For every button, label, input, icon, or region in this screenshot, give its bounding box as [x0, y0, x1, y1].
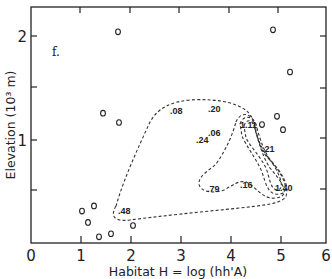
data-point	[117, 120, 122, 126]
contour-label: 1.40	[275, 183, 293, 193]
data-point	[109, 231, 114, 237]
contour-label: .06	[208, 128, 221, 138]
contour-outer	[113, 100, 287, 221]
x-tick-labels: 0 1 2 3 4 5 6	[26, 247, 331, 265]
x-tick-label: 1	[76, 247, 86, 265]
data-point	[275, 114, 280, 120]
data-point	[80, 208, 85, 214]
contour-lines	[113, 100, 287, 221]
contour-label: .79	[207, 184, 220, 194]
x-tick-label: 4	[226, 247, 236, 265]
x-tick-label: 3	[176, 247, 186, 265]
contour-label: .24	[196, 135, 209, 145]
x-axis-title: Habitat H = log (hh'A)	[109, 264, 247, 279]
scatter-contour-chart: 0 1 2 3 4 5 6 2 1 Habitat H = log (hh'A)…	[0, 0, 332, 279]
data-points	[80, 27, 293, 240]
x-tick-label: 2	[126, 247, 136, 265]
data-point	[281, 127, 286, 133]
data-point	[260, 122, 265, 128]
contour-label: .20	[208, 104, 221, 114]
data-point	[288, 69, 293, 75]
data-point	[116, 29, 121, 35]
data-point	[97, 234, 102, 240]
x-tick-label: 6	[321, 247, 331, 265]
y-tick-label: 2	[17, 28, 27, 46]
contour-label: .21	[262, 144, 275, 154]
x-tick-label: 5	[276, 247, 286, 265]
contour-label: .48	[118, 206, 131, 216]
contour-label: .08	[170, 106, 183, 116]
data-point	[86, 220, 91, 226]
contour-label: 1.11	[240, 120, 257, 130]
contour-label: .16	[240, 180, 253, 190]
data-point	[271, 27, 276, 33]
panel-label: f.	[52, 45, 60, 59]
contour-value-labels: .08 .20 .06 .24 1.11 .21 .79 .16 1.40 .4…	[118, 104, 293, 216]
plot-frame	[31, 7, 326, 243]
data-point	[131, 223, 136, 229]
data-point	[101, 110, 106, 116]
y-tick-label: 1	[17, 132, 27, 150]
y-axis-title: Elevation (10³ m)	[3, 71, 18, 180]
x-tick-label: 0	[26, 247, 36, 265]
data-point	[92, 203, 97, 209]
